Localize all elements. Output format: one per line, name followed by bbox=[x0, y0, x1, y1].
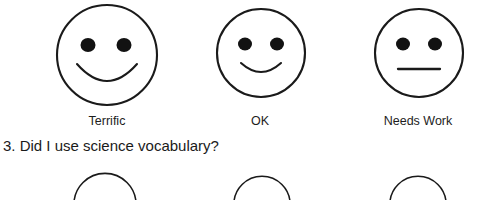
neutral-face-icon bbox=[378, 163, 458, 200]
smiling-face-icon bbox=[52, 0, 162, 110]
rating-option-ok[interactable] bbox=[213, 5, 309, 101]
slight-smiling-face-icon bbox=[213, 5, 309, 101]
question-text: 3. Did I use science vocabulary? bbox=[3, 136, 219, 156]
neutral-face-icon bbox=[371, 5, 467, 101]
rating-scale-row: Terrific OK Needs Work bbox=[0, 0, 478, 135]
rating-option-needs-work[interactable] bbox=[371, 5, 467, 101]
partial-face-3[interactable] bbox=[378, 163, 458, 200]
next-rating-scale-row-partial bbox=[0, 163, 478, 200]
rating-label-ok: OK bbox=[210, 114, 310, 128]
partial-face-2[interactable] bbox=[222, 163, 302, 200]
partial-face-1[interactable] bbox=[61, 163, 149, 200]
rating-option-terrific[interactable] bbox=[52, 0, 162, 110]
smiling-face-icon bbox=[61, 163, 149, 200]
smiling-face-icon bbox=[222, 163, 302, 200]
rating-label-terrific: Terrific bbox=[57, 114, 157, 128]
rating-label-needs-work: Needs Work bbox=[368, 114, 468, 128]
worksheet-page: Terrific OK Needs Work 3. Did I use scie… bbox=[0, 0, 478, 200]
